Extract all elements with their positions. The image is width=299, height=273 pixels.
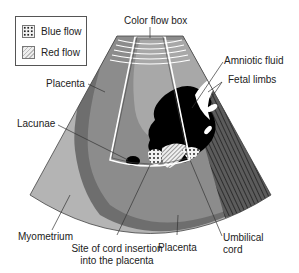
label-color-flow-box: Color flow box [124,15,187,27]
label-fetal-limbs: Fetal limbs [228,74,276,86]
legend: Blue flow Red flow [15,16,87,66]
legend-item-red-flow: Red flow [22,45,80,59]
label-amniotic-fluid: Amniotic fluid [224,55,283,67]
hatched-pattern-icon [22,46,35,59]
label-lacunae: Lacunae [17,118,55,130]
label-placenta-top: Placenta [46,78,85,90]
dotted-pattern-icon [22,25,35,38]
label-umbilical-cord: Umbilical cord [223,232,264,256]
label-myometrium: Myometrium [18,231,73,243]
label-placenta-bottom: Placenta [158,242,197,254]
legend-item-blue-flow: Blue flow [22,24,82,38]
